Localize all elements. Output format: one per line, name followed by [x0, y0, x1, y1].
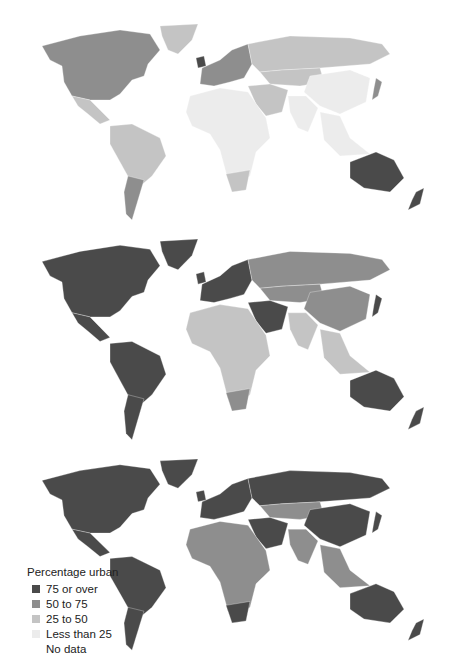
- region-europe-west: [200, 478, 252, 519]
- legend: Percentage urban 75 or over 50 to 75 25 …: [27, 566, 118, 656]
- region-greenland: [160, 24, 198, 54]
- region-north-america: [42, 30, 160, 100]
- region-australia: [350, 584, 404, 623]
- swatch-75-plus: [32, 585, 40, 593]
- region-india: [288, 96, 318, 132]
- region-uk: [196, 56, 206, 68]
- region-russia: [248, 471, 390, 506]
- region-uk: [196, 490, 206, 502]
- region-russia: [248, 36, 390, 72]
- region-uk: [196, 272, 206, 284]
- region-greenland: [160, 459, 198, 488]
- region-se-asia: [320, 545, 370, 588]
- region-india: [288, 529, 318, 564]
- region-argentina: [124, 607, 144, 650]
- region-japan: [372, 512, 382, 533]
- world-map-2: [20, 235, 440, 450]
- region-south-africa: [226, 389, 250, 412]
- region-new-zealand: [408, 619, 424, 640]
- region-japan: [372, 78, 382, 100]
- legend-title: Percentage urban: [27, 566, 118, 578]
- swatch-no-data: [32, 645, 40, 653]
- region-south-africa: [226, 601, 250, 622]
- region-se-asia: [320, 329, 370, 374]
- world-map-1: [20, 20, 440, 230]
- region-argentina: [124, 176, 144, 220]
- legend-item-under-25: Less than 25: [32, 626, 118, 641]
- legend-item-no-data: No data: [32, 641, 118, 656]
- region-japan: [372, 294, 382, 317]
- region-india: [288, 313, 318, 350]
- legend-label: 25 to 50: [46, 613, 88, 625]
- region-north-america: [42, 245, 160, 317]
- legend-label: 75 or over: [46, 583, 98, 595]
- legend-item-75-plus: 75 or over: [32, 581, 118, 596]
- swatch-50-75: [32, 600, 40, 608]
- region-europe-west: [200, 260, 252, 303]
- legend-item-25-50: 25 to 50: [32, 611, 118, 626]
- region-europe-west: [200, 44, 252, 86]
- region-australia: [350, 152, 404, 192]
- swatch-25-50: [32, 615, 40, 623]
- region-argentina: [124, 395, 144, 440]
- region-se-asia: [320, 112, 370, 156]
- legend-label: 50 to 75: [46, 598, 88, 610]
- region-north-america: [42, 465, 160, 533]
- region-new-zealand: [408, 407, 424, 430]
- legend-label: Less than 25: [46, 628, 112, 640]
- region-russia: [248, 251, 390, 288]
- swatch-under-25: [32, 630, 40, 638]
- region-new-zealand: [408, 188, 424, 210]
- region-greenland: [160, 239, 198, 270]
- legend-label: No data: [46, 643, 86, 655]
- legend-item-50-75: 50 to 75: [32, 596, 118, 611]
- region-australia: [350, 370, 404, 411]
- region-south-africa: [226, 170, 250, 192]
